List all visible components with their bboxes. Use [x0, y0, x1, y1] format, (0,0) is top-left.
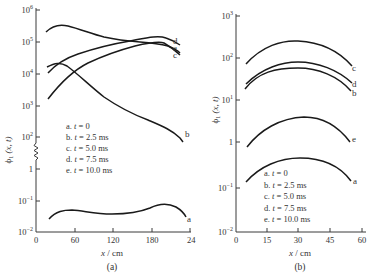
legend: a. t = 0 b. t = 2.5 ms c. t = 5.0 ms d. … — [264, 168, 310, 224]
panel-b: 103 102 101 1 10−1 10−2 0 15 30 45 60 x … — [210, 10, 366, 273]
svg-text:10−1: 10−1 — [218, 182, 233, 193]
svg-text:102: 102 — [222, 52, 234, 63]
svg-text:c. t = 5.0 ms: c. t = 5.0 ms — [264, 191, 306, 201]
svg-text:120: 120 — [107, 235, 120, 245]
x-tick-labels: 0 15 30 45 60 — [234, 235, 366, 245]
svg-text:60: 60 — [71, 235, 80, 245]
svg-text:a: a — [353, 176, 357, 186]
x-ticks — [267, 228, 362, 232]
svg-text:a: a — [187, 214, 191, 224]
curve-a — [49, 204, 186, 219]
curve-c — [48, 42, 180, 99]
svg-text:e. t = 10.0 ms: e. t = 10.0 ms — [264, 214, 310, 224]
svg-text:102: 102 — [22, 131, 34, 142]
svg-text:60: 60 — [358, 235, 367, 245]
svg-text:a. t = 0: a. t = 0 — [264, 168, 288, 178]
svg-text:1: 1 — [229, 137, 233, 147]
x-ticks — [75, 228, 190, 232]
svg-text:10−1: 10−1 — [18, 195, 33, 206]
y-axis-label: ϕ1 (x, t) — [210, 97, 221, 124]
svg-text:101: 101 — [222, 94, 234, 105]
curve-a — [246, 158, 351, 182]
svg-text:10−2: 10−2 — [18, 226, 33, 237]
svg-text:b: b — [185, 129, 190, 139]
svg-text:d. t = 7.5 ms: d. t = 7.5 ms — [66, 154, 109, 164]
svg-text:103: 103 — [222, 10, 234, 21]
panel-caption: (a) — [107, 262, 118, 273]
svg-text:0: 0 — [234, 235, 238, 245]
svg-text:d. t = 7.5 ms: d. t = 7.5 ms — [264, 203, 307, 213]
y-ticks — [236, 16, 240, 188]
svg-text:e. t = 10.0 ms: e. t = 10.0 ms — [66, 165, 112, 175]
curve-labels: c d b e a — [352, 63, 357, 186]
curve-labels: a b d e c — [173, 36, 191, 224]
svg-text:104: 104 — [22, 68, 34, 79]
svg-text:10−2: 10−2 — [218, 226, 233, 237]
panel-a: 106 105 104 103 102 1 10−1 10−2 0 60 120… — [3, 4, 196, 273]
svg-text:15: 15 — [263, 235, 272, 245]
svg-text:180: 180 — [146, 235, 159, 245]
x-axis-label: x / cm — [288, 248, 311, 258]
svg-text:30: 30 — [294, 235, 303, 245]
y-axis-label: ϕ1 (x, t) — [3, 137, 14, 164]
curve-d — [246, 62, 352, 84]
svg-text:103: 103 — [22, 100, 34, 111]
x-axis-label: x / cm — [100, 248, 123, 258]
figure: 106 105 104 103 102 1 10−1 10−2 0 60 120… — [0, 0, 376, 274]
svg-text:b: b — [352, 88, 357, 98]
svg-text:e: e — [352, 134, 356, 144]
svg-text:c. t = 5.0 ms: c. t = 5.0 ms — [66, 143, 108, 153]
y-tick-labels: 106 105 104 103 102 1 10−1 10−2 — [18, 4, 33, 237]
panel-caption: (b) — [294, 262, 305, 273]
x-tick-labels: 0 60 120 180 24 — [34, 235, 196, 245]
svg-text:1: 1 — [29, 164, 33, 174]
svg-text:45: 45 — [326, 235, 335, 245]
legend: a. t = 0 b. t = 2.5 ms c. t = 5.0 ms d. … — [66, 121, 112, 175]
svg-text:c: c — [173, 50, 177, 60]
y-tick-labels: 103 102 101 1 10−1 10−2 — [218, 10, 233, 237]
svg-text:c: c — [352, 63, 356, 73]
y-ticks — [36, 10, 40, 201]
svg-text:105: 105 — [22, 36, 34, 47]
svg-text:106: 106 — [22, 4, 34, 15]
svg-text:0: 0 — [34, 235, 38, 245]
svg-text:b. t = 2.5 ms: b. t = 2.5 ms — [66, 132, 109, 142]
svg-text:b. t = 2.5 ms: b. t = 2.5 ms — [264, 180, 307, 190]
curve-e — [247, 117, 350, 147]
axis-break — [34, 143, 38, 160]
curve-e — [46, 25, 180, 53]
svg-text:a. t = 0: a. t = 0 — [66, 121, 90, 131]
svg-text:24: 24 — [187, 235, 196, 245]
